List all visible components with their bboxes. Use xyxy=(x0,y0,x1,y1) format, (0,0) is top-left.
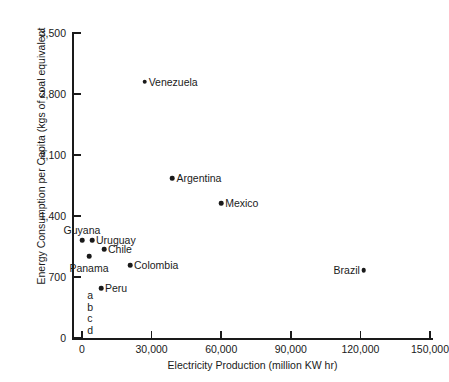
x-tick-mark xyxy=(290,331,292,339)
data-point xyxy=(87,254,92,259)
data-point-label: Argentina xyxy=(176,173,221,184)
data-point-label: Mexico xyxy=(225,198,258,209)
y-tick-mark xyxy=(72,276,81,278)
data-point-label: Venezuela xyxy=(149,77,198,88)
x-tick-mark xyxy=(220,331,222,339)
data-point xyxy=(99,286,104,291)
data-point-label: Peru xyxy=(105,283,127,294)
y-axis-title: Energy Consumption per Capita (kgs of co… xyxy=(36,35,47,285)
x-axis-title: Electricity Production (million KW hr) xyxy=(72,360,433,371)
data-point xyxy=(142,80,147,85)
x-tick-label: 120,000 xyxy=(341,344,379,355)
annotation-letter: a xyxy=(87,290,93,301)
x-tick-label: 0 xyxy=(79,344,85,355)
data-point-label: Brazil xyxy=(334,265,360,276)
data-point xyxy=(170,176,175,181)
x-tick-mark xyxy=(360,331,362,339)
annotation-letter: d xyxy=(87,324,93,335)
data-point xyxy=(90,238,95,243)
data-point xyxy=(362,268,367,273)
y-tick-mark xyxy=(72,215,81,217)
y-tick-mark xyxy=(72,32,81,34)
y-axis-spine xyxy=(72,33,74,339)
data-point xyxy=(219,201,224,206)
x-tick-label: 60,000 xyxy=(205,344,237,355)
data-point-label: Guyana xyxy=(64,224,101,235)
x-tick-mark xyxy=(151,331,153,339)
x-tick-mark xyxy=(429,331,431,339)
annotation-letter: b xyxy=(87,302,93,313)
x-axis-spine xyxy=(72,338,433,340)
data-point xyxy=(80,238,85,243)
y-tick-mark xyxy=(72,93,81,95)
y-tick-mark xyxy=(72,154,81,156)
data-point-label: Chile xyxy=(108,244,132,255)
data-point xyxy=(102,247,107,252)
data-point-label: Colombia xyxy=(134,260,178,271)
x-tick-label: 150,000 xyxy=(411,344,449,355)
data-point-label: Panama xyxy=(69,263,108,274)
annotation-letter: c xyxy=(87,313,92,324)
x-tick-label: 90,000 xyxy=(275,344,307,355)
y-tick-label: 0 xyxy=(20,333,66,344)
x-tick-mark xyxy=(81,331,83,339)
y-tick-mark xyxy=(72,337,81,339)
data-point xyxy=(128,263,133,268)
x-tick-label: 30,000 xyxy=(136,344,168,355)
